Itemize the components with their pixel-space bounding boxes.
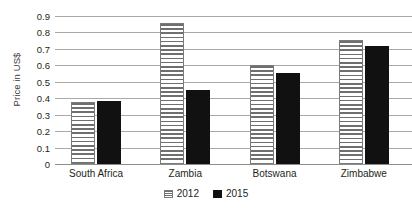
bar-2015 [365,46,389,164]
legend-label: 2012 [177,188,199,199]
bar-group [160,16,210,164]
bar-2012 [71,102,95,164]
legend-item-2012[interactable]: 2012 [164,188,199,199]
y-tick-label: 0.3 [37,109,50,120]
y-tick-label: 0.6 [37,60,50,71]
bar-2012 [339,40,363,164]
x-axis-label: Zambia [169,168,202,179]
plot-area: 0.90.80.70.60.50.40.30.20.10 [55,16,412,164]
bar-2015 [276,73,300,164]
bar-2015 [186,90,210,164]
legend-item-2015[interactable]: 2015 [213,188,248,199]
bar-chart-figure: Price in US$ 0.90.80.70.60.50.40.30.20.1… [0,0,412,212]
bar-group [71,16,121,164]
bar-2015 [97,101,121,164]
x-axis-label: Botswana [253,168,297,179]
bars-layer [55,16,412,164]
legend-label: 2015 [226,188,248,199]
legend-swatch-icon [213,190,222,198]
y-tick-label: 0.2 [37,126,50,137]
y-tick-label: 0.7 [37,43,50,54]
y-tick-label: 0.9 [37,11,50,22]
y-tick-label: 0.8 [37,27,50,38]
bar-2012 [250,65,274,164]
y-tick-label: 0.5 [37,76,50,87]
x-axis-label: South Africa [69,168,123,179]
gridline-0: 0 [55,164,412,165]
bar-group [339,16,389,164]
y-tick-label: 0 [45,159,50,170]
y-tick-label: 0.4 [37,93,50,104]
legend-swatch-icon [164,190,173,198]
x-axis-label: Zimbabwe [341,168,387,179]
bar-2012 [160,23,184,164]
y-axis-title: Price in US$ [11,20,22,140]
bar-group [250,16,300,164]
chart-legend: 20122015 [0,188,412,199]
y-tick-label: 0.1 [37,142,50,153]
